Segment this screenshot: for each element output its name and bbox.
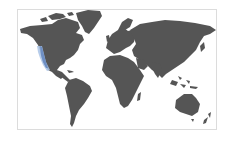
region-caribbean[interactable] — [67, 70, 74, 73]
region-scandinavia[interactable] — [118, 18, 133, 30]
region-south-america[interactable] — [65, 78, 92, 127]
region-new-zealand[interactable] — [203, 112, 211, 124]
region-madagascar[interactable] — [137, 92, 141, 101]
region-australia[interactable] — [175, 94, 200, 116]
region-north-america[interactable] — [20, 18, 84, 79]
region-southeast-asia-islands[interactable] — [170, 76, 198, 89]
region-japan[interactable] — [200, 42, 205, 52]
landmasses — [20, 10, 216, 127]
region-greenland[interactable] — [76, 10, 102, 34]
world-map[interactable] — [0, 0, 233, 141]
region-tasmania[interactable] — [191, 119, 194, 122]
